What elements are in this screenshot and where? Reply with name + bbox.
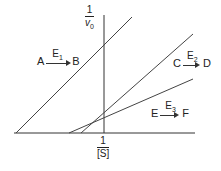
reaction-arrow: E3	[160, 106, 180, 120]
arrow-right-icon	[183, 65, 197, 66]
enzyme-label: E1	[52, 48, 63, 61]
reaction-arrow: E1	[46, 54, 70, 68]
substrate-label: A	[37, 55, 44, 67]
arrow-right-icon	[46, 63, 68, 64]
y-label-denominator: v0	[85, 18, 94, 30]
x-axis-label: 1 [S]	[97, 136, 109, 159]
substrate-label: E	[151, 107, 158, 119]
reaction-e1: A E1 B	[37, 54, 80, 68]
substrate-label: C	[173, 57, 181, 69]
x-label-denominator: [S]	[97, 149, 109, 159]
reaction-e3: E E3 F	[151, 106, 189, 120]
line-e1	[16, 17, 132, 133]
y-label-numerator: 1	[86, 5, 94, 15]
plot-canvas	[0, 0, 221, 171]
arrow-right-icon	[160, 115, 176, 116]
reaction-e2: C E2 D	[173, 56, 211, 70]
lineweaver-burk-diagram: 1 v0 1 [S] A E1 B C E2 D E E3 F	[0, 0, 221, 171]
x-label-numerator: 1	[99, 136, 107, 146]
y-axis-label: 1 v0	[85, 5, 94, 30]
product-label: F	[182, 107, 189, 119]
reaction-arrow: E2	[183, 56, 201, 70]
product-label: B	[72, 55, 79, 67]
product-label: D	[203, 57, 211, 69]
